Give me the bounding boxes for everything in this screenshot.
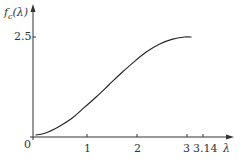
y-tick-label-2-5: 2.5 bbox=[14, 30, 32, 43]
x-axis-label: λ bbox=[223, 142, 230, 155]
x-tick-label-314: 3.14 bbox=[193, 142, 218, 155]
x-axis-arrow-icon bbox=[226, 135, 234, 140]
x-tick-label-1: 1 bbox=[84, 142, 91, 155]
y-axis-arrow-icon bbox=[31, 4, 36, 12]
y-axis-label: fc(λ) bbox=[4, 6, 28, 21]
series-line bbox=[36, 37, 192, 135]
x-tick-label-3: 3 bbox=[183, 142, 190, 155]
y-axis-label-arg: (λ) bbox=[13, 6, 29, 19]
chart-canvas bbox=[0, 0, 245, 164]
x-tick-label-2: 2 bbox=[134, 142, 141, 155]
origin-label: 0 bbox=[24, 138, 31, 151]
